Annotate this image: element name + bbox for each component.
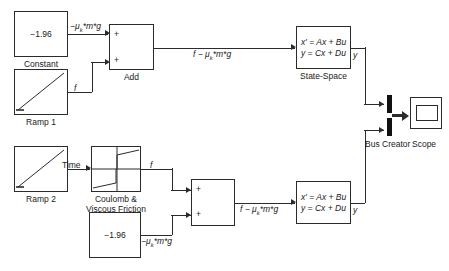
- block-diagram-canvas: −1.96 Constant −μk*m*g Ramp 1 f + + Add …: [0, 0, 449, 271]
- statespace-top-eq2: y = Cx + Du: [301, 48, 346, 59]
- add-block-top[interactable]: + +: [109, 24, 154, 70]
- arrow-bus-in1: [379, 101, 384, 107]
- signal-label-ramp1-out: f: [74, 83, 76, 93]
- wire-ramp1-out: [68, 92, 92, 93]
- signal-label-const-bottom-out: −μk*m*g: [141, 236, 172, 250]
- wire-ss-bottom-out: [351, 203, 365, 204]
- signal-label-add-bottom-out: f − μk*m*g: [240, 204, 278, 218]
- statespace-bottom-eq1: x′ = Ax + Bu: [301, 192, 346, 203]
- statespace-block-top[interactable]: x′ = Ax + Bu y = Cx + Du: [296, 26, 351, 69]
- coulomb-viscous-friction-icon: [92, 147, 140, 191]
- ramp-icon: [15, 70, 67, 114]
- ramp2-block[interactable]: [14, 146, 68, 192]
- constant-block-top[interactable]: −1.96: [14, 11, 68, 57]
- signal-label-const-top-out: −μk*m*g: [70, 21, 101, 35]
- add-block-bottom[interactable]: + +: [191, 179, 235, 226]
- ramp1-label: Ramp 1: [14, 117, 68, 127]
- statespace-top-equations: x′ = Ax + Bu y = Cx + Du: [301, 37, 346, 59]
- add-top-plus2: +: [114, 55, 119, 65]
- arrow-scope-in: [402, 111, 409, 121]
- wire-ss-top-drop: [365, 47, 366, 104]
- friction-block[interactable]: [91, 146, 141, 192]
- constant-label-top: Constant: [14, 59, 68, 69]
- scope-label: Scope: [412, 139, 436, 149]
- add-bottom-plus2: +: [196, 209, 201, 219]
- constant-value-top: −1.96: [15, 29, 67, 39]
- wire-friction-out: [141, 169, 172, 170]
- ramp-icon: [15, 147, 67, 191]
- signal-label-friction-out: f: [150, 160, 152, 170]
- ramp1-block[interactable]: [14, 69, 68, 115]
- add-top-plus1: +: [114, 29, 119, 39]
- friction-label-line1: Coulomb &: [84, 194, 148, 204]
- constant-block-bottom[interactable]: −1.96: [89, 212, 141, 258]
- scope-block[interactable]: [410, 97, 442, 129]
- signal-label-add-top-out: f − μk*m*g: [193, 49, 231, 63]
- bus-creator-label: Bus Creator: [365, 139, 410, 149]
- statespace-top-output-label: y: [353, 50, 357, 60]
- signal-label-ramp2-out: Time: [62, 160, 81, 170]
- add-bottom-plus1: +: [196, 184, 201, 194]
- wire-const-bottom-riser: [172, 215, 173, 235]
- ramp2-label: Ramp 2: [14, 194, 68, 204]
- statespace-bottom-output-label: y: [353, 205, 357, 215]
- statespace-top-eq1: x′ = Ax + Bu: [301, 37, 346, 48]
- arrow-bus-in2: [379, 127, 384, 133]
- scope-screen: [416, 105, 438, 121]
- statespace-top-label: State-Space: [287, 71, 360, 81]
- statespace-bottom-eq2: y = Cx + Du: [301, 203, 346, 214]
- statespace-block-bottom[interactable]: x′ = Ax + Bu y = Cx + Du: [296, 181, 351, 224]
- wire-ss-top-out: [351, 48, 365, 49]
- constant-value-bottom: −1.96: [90, 230, 140, 240]
- statespace-bottom-equations: x′ = Ax + Bu y = Cx + Du: [301, 192, 346, 214]
- wire-ramp1-riser: [92, 62, 93, 92]
- add-top-label: Add: [109, 72, 154, 82]
- wire-friction-drop: [172, 168, 173, 190]
